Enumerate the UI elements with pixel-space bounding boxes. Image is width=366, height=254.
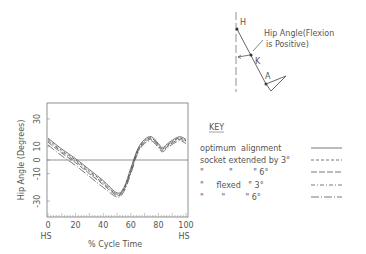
x-tick-label: 0 bbox=[45, 221, 50, 230]
legend-label: socket extended by 3° bbox=[200, 156, 290, 165]
legend-rows: optimum alignmentsocket extended by 3°" … bbox=[200, 144, 342, 202]
label-k: K bbox=[255, 57, 261, 66]
legend-label: " flexed " 3° bbox=[200, 181, 264, 190]
x-tick-sublabel: HS bbox=[178, 232, 189, 241]
hip-point bbox=[236, 28, 239, 31]
series-line bbox=[48, 138, 186, 195]
label-a: A bbox=[265, 72, 271, 81]
series-line bbox=[48, 137, 186, 194]
chart-series bbox=[48, 137, 186, 198]
legend-label: optimum alignment bbox=[200, 144, 282, 153]
x-tick-label: 100 bbox=[178, 221, 193, 230]
y-tick-label: 0 bbox=[33, 157, 42, 162]
figure: H K A Hip Angle(Flexion is Positive) 301… bbox=[0, 0, 366, 254]
x-tick-label: 40 bbox=[98, 221, 108, 230]
legend-label: " " " 6° bbox=[200, 168, 268, 177]
caption-leader-line bbox=[253, 40, 263, 51]
y-tick-label: -30 bbox=[33, 195, 42, 208]
caption-line1: Hip Angle(Flexion bbox=[264, 29, 334, 38]
x-tick-label: 20 bbox=[71, 221, 81, 230]
x-tick-label: 60 bbox=[126, 221, 136, 230]
y-tick-label: 10 bbox=[33, 141, 42, 151]
legend: KEY optimum alignmentsocket extended by … bbox=[200, 123, 342, 202]
leg-diagram: H K A Hip Angle(Flexion is Positive) bbox=[236, 12, 335, 92]
x-minor-ticks bbox=[48, 213, 186, 217]
x-axis-ticks: 0HS20406080100HS bbox=[40, 221, 193, 241]
y-tick-label: 30 bbox=[33, 114, 42, 124]
x-tick-label: 80 bbox=[153, 221, 163, 230]
label-h: H bbox=[240, 18, 246, 27]
y-tick-label: -10 bbox=[33, 167, 42, 180]
y-axis-ticks: 30100-10-30 bbox=[33, 114, 50, 208]
caption-line2: is Positive) bbox=[266, 40, 309, 49]
chart: 30100-10-30 0HS20406080100HS % Cycle Tim… bbox=[17, 103, 194, 249]
legend-title: KEY bbox=[209, 123, 224, 132]
x-tick-sublabel: HS bbox=[40, 232, 51, 241]
y-axis-label: Hip Angle (Degrees) bbox=[17, 120, 26, 201]
series-line bbox=[48, 138, 186, 195]
x-axis-label: % Cycle Time bbox=[88, 240, 142, 249]
legend-label: " " " 6° bbox=[200, 193, 261, 202]
